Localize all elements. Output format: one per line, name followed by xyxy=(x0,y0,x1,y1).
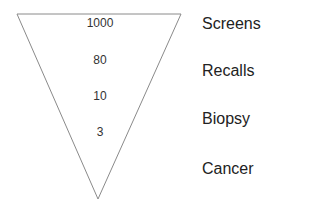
funnel-value-recalls: 80 xyxy=(70,53,130,67)
label-biopsy: Biopsy xyxy=(202,110,250,128)
label-screens: Screens xyxy=(202,15,261,33)
funnel-value-cancer: 3 xyxy=(70,125,130,139)
funnel-value-biopsy: 10 xyxy=(70,89,130,103)
label-recalls: Recalls xyxy=(202,62,254,80)
label-cancer: Cancer xyxy=(202,160,254,178)
funnel-value-screens: 1000 xyxy=(70,16,130,30)
